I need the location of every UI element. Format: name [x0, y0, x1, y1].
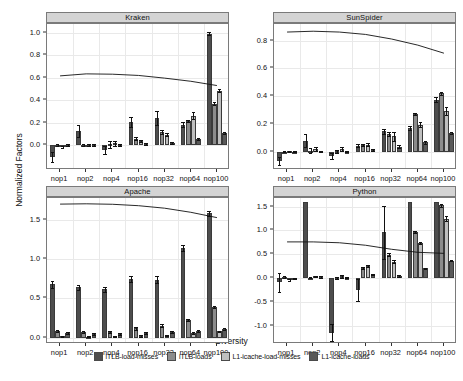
legend-label: L1-icache-load-misses: [233, 353, 301, 360]
x-tick-mark: [85, 343, 86, 346]
y-tick-mark: [270, 39, 273, 40]
x-tick-label: nop2: [77, 174, 93, 183]
x-tick-mark: [417, 343, 418, 346]
y-axis-label: Normalized Factors: [12, 0, 26, 340]
panel-title-text: Kraken: [47, 13, 228, 23]
y-tick-label: 0.0: [30, 332, 40, 341]
x-tick-mark: [338, 169, 339, 172]
y-tick-mark: [43, 258, 46, 259]
x-tick-label: nop4: [103, 174, 119, 183]
x-tick-mark: [312, 343, 313, 346]
legend-label: L1-icache-loads: [321, 353, 369, 360]
x-tick-mark: [338, 343, 339, 346]
x-tick-label: nop1: [278, 174, 294, 183]
x-tick-mark: [391, 343, 392, 346]
x-tick-mark: [312, 169, 313, 172]
panel-title-python: Python: [273, 186, 456, 197]
plot-area-python: [273, 197, 456, 343]
y-tick-label: 0.0: [30, 140, 40, 149]
panel-title-text: Apache: [47, 187, 228, 197]
y-tick-label: 0.0: [257, 146, 267, 155]
x-tick-mark: [190, 343, 191, 346]
y-tick-label: 0.6: [30, 72, 40, 81]
panel-title-kraken: Kraken: [46, 12, 229, 23]
legend-swatch: [309, 352, 318, 361]
y-tick-mark: [270, 205, 273, 206]
x-tick-mark: [59, 343, 60, 346]
legend-label: iTLB-load-misses: [106, 353, 158, 360]
x-tick-label: nop1: [51, 174, 67, 183]
y-tick-label: 0.4: [30, 95, 40, 104]
y-tick-mark: [270, 123, 273, 124]
y-tick-label: -0.5: [254, 297, 267, 306]
y-tick-mark: [270, 301, 273, 302]
y-tick-label: 1.0: [30, 254, 40, 263]
y-tick-mark: [270, 67, 273, 68]
y-tick-label: 1.5: [257, 201, 267, 210]
y-tick-mark: [270, 324, 273, 325]
y-tick-mark: [43, 144, 46, 145]
x-tick-mark: [216, 169, 217, 172]
x-tick-mark: [164, 343, 165, 346]
trend-line: [47, 24, 229, 169]
x-tick-mark: [190, 169, 191, 172]
x-tick-label: nop16: [354, 174, 375, 183]
panel-title-text: Python: [274, 187, 455, 197]
x-tick-mark: [216, 343, 217, 346]
y-tick-label: 0.4: [257, 91, 267, 100]
plot-area-apache: [46, 197, 229, 343]
x-tick-mark: [85, 169, 86, 172]
legend-item: iTLB-load-misses: [94, 352, 158, 361]
legend-item: L1-icache-loads: [309, 352, 369, 361]
y-tick-label: 0.0: [257, 273, 267, 282]
x-tick-mark: [111, 169, 112, 172]
legend-label: iTLB-loads: [179, 353, 211, 360]
y-tick-mark: [270, 229, 273, 230]
y-tick-mark: [43, 121, 46, 122]
legend-swatch: [167, 352, 176, 361]
y-tick-label: 0.5: [257, 249, 267, 258]
x-tick-mark: [59, 169, 60, 172]
x-tick-mark: [111, 343, 112, 346]
y-tick-mark: [270, 150, 273, 151]
legend-item: L1-icache-load-misses: [221, 352, 301, 361]
y-tick-mark: [43, 54, 46, 55]
panel-title-text: SunSpider: [274, 13, 455, 23]
x-tick-mark: [391, 169, 392, 172]
y-tick-label: 1.0: [30, 27, 40, 36]
y-tick-label: 0.8: [30, 50, 40, 59]
y-tick-mark: [43, 336, 46, 337]
y-tick-mark: [43, 99, 46, 100]
legend-swatch: [221, 352, 230, 361]
y-tick-label: 0.2: [257, 119, 267, 128]
x-tick-mark: [417, 169, 418, 172]
y-tick-mark: [43, 76, 46, 77]
x-tick-mark: [164, 169, 165, 172]
y-tick-label: -1.0: [254, 320, 267, 329]
x-tick-mark: [138, 169, 139, 172]
y-tick-label: 0.6: [257, 63, 267, 72]
x-tick-label: nop2: [304, 174, 320, 183]
y-tick-mark: [270, 253, 273, 254]
x-tick-label: nop32: [380, 174, 401, 183]
y-tick-label: 0.5: [30, 293, 40, 302]
chart-legend: iTLB-load-missesiTLB-loadsL1-icache-load…: [0, 352, 463, 361]
y-tick-mark: [270, 277, 273, 278]
x-tick-label: nop100: [431, 174, 456, 183]
y-tick-label: 0.8: [257, 35, 267, 44]
x-tick-mark: [365, 343, 366, 346]
x-tick-label: nop64: [407, 174, 428, 183]
plot-area-sunspider: [273, 23, 456, 169]
x-tick-mark: [286, 169, 287, 172]
y-tick-label: 1.0: [257, 225, 267, 234]
x-tick-mark: [365, 169, 366, 172]
x-tick-label: nop64: [180, 174, 201, 183]
panel-title-sunspider: SunSpider: [273, 12, 456, 23]
y-tick-mark: [270, 95, 273, 96]
x-tick-mark: [138, 343, 139, 346]
legend-item: iTLB-loads: [167, 352, 211, 361]
y-tick-mark: [43, 297, 46, 298]
trend-line: [274, 198, 456, 343]
y-tick-mark: [43, 31, 46, 32]
y-tick-label: 1.5: [30, 214, 40, 223]
